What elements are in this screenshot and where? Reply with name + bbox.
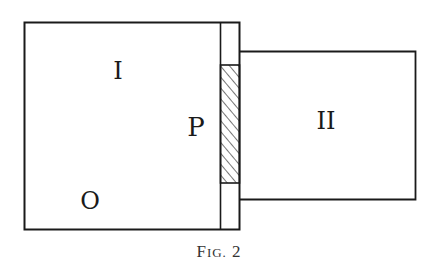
- figure-caption: FIG. 2: [0, 242, 438, 262]
- label-region-two: II: [317, 107, 336, 135]
- label-region-one: I: [113, 57, 122, 85]
- caption-prefix: F: [196, 242, 206, 261]
- diagram: I P O II: [0, 0, 438, 279]
- region-one-box: [25, 23, 240, 230]
- caption-number: 2: [232, 242, 242, 261]
- caption-smallcaps: IG.: [207, 245, 227, 260]
- partition-hatched: [221, 65, 240, 183]
- label-partition: P: [187, 112, 205, 142]
- label-point: O: [80, 187, 100, 215]
